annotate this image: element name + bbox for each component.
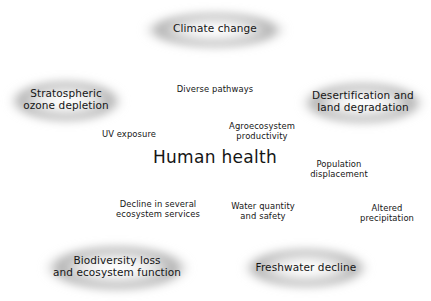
node-climate-change[interactable]: Climate change: [143, 22, 287, 34]
edge-label-water-quantity-safety: Water quantity and safety: [218, 202, 308, 222]
diagram-canvas: Climate change Stratospheric ozone deple…: [0, 0, 431, 301]
node-biodiversity-loss-ecosystem-function[interactable]: Biodiversity loss and ecosystem function: [44, 254, 190, 279]
node-stratospheric-ozone-depletion[interactable]: Stratospheric ozone depletion: [8, 87, 124, 112]
edge-label-altered-precipitation: Altered precipitation: [350, 204, 424, 224]
edge-label-decline-ecosystem-services: Decline in several ecosystem services: [105, 200, 211, 220]
edge-label-diverse-pathways: Diverse pathways: [160, 85, 270, 95]
edge-label-population-displacement: Population displacement: [302, 160, 376, 180]
node-freshwater-decline[interactable]: Freshwater decline: [244, 261, 368, 273]
center-label-human-health: Human health: [150, 147, 280, 167]
node-desertification-land-degradation[interactable]: Desertification and land degradation: [300, 89, 426, 114]
edge-label-agroecosystem-productivity: Agroecosystem productivity: [217, 122, 307, 142]
edge-label-uv-exposure: UV exposure: [90, 130, 168, 140]
